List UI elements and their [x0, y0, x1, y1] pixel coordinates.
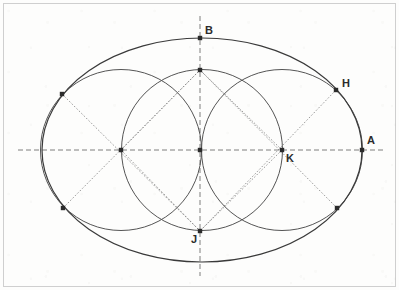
vertex-point-C [119, 148, 123, 152]
geometry-diagram: ABHJK [0, 0, 399, 290]
vertex-point-J [198, 229, 202, 233]
figure-canvas: ABHJK [0, 0, 399, 290]
vertex-point-A [360, 148, 364, 152]
point-label-K: K [286, 152, 294, 164]
point-label-A: A [367, 134, 375, 146]
point-label-H: H [342, 77, 350, 89]
vertex-point-K [280, 148, 284, 152]
point-label-B: B [205, 24, 213, 36]
vertex-point-Q [61, 206, 65, 210]
vertex-point-T [198, 68, 202, 72]
point-label-J: J [191, 233, 197, 245]
vertex-point-B [198, 36, 202, 40]
figure-background [0, 0, 399, 290]
vertex-point-R [335, 206, 339, 210]
vertex-point-O [198, 148, 202, 152]
vertex-point-H [334, 88, 338, 92]
vertex-point-P [60, 92, 64, 96]
